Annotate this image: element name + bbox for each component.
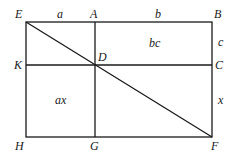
point-label-E: E (14, 7, 23, 21)
region-label-bc: bc (149, 36, 161, 50)
rectangle-diagram: E A B K D C H G F a b c x bc ax (0, 0, 234, 160)
point-label-D: D (97, 50, 107, 64)
segment-label-x: x (217, 93, 224, 107)
segment-label-c: c (218, 35, 224, 49)
point-label-F: F (210, 139, 219, 153)
segment-label-b: b (155, 7, 161, 21)
point-label-C: C (215, 58, 224, 72)
point-label-A: A (89, 7, 98, 21)
region-label-ax: ax (55, 93, 67, 107)
point-label-K: K (13, 58, 23, 72)
point-label-H: H (14, 139, 25, 153)
diagonal-EF (26, 22, 212, 137)
point-label-B: B (214, 7, 222, 21)
point-label-G: G (90, 139, 99, 153)
segment-label-a: a (57, 7, 63, 21)
